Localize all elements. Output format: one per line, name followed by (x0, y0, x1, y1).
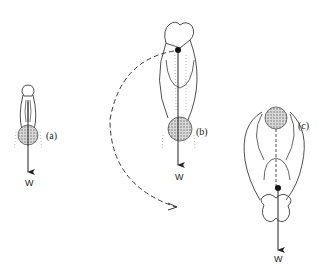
bulb-b (168, 117, 192, 141)
force-label-c: W (274, 254, 283, 264)
rotation-arrowhead-icon (168, 203, 177, 210)
root-arch-c (264, 158, 290, 180)
panel-label-b: (b) (196, 126, 208, 138)
force-label-b: W (175, 172, 184, 182)
panel-label-c: (c) (298, 120, 309, 132)
force-label-a: W (25, 178, 34, 188)
rotation-arrow (110, 51, 176, 207)
panel-label-a: (a) (46, 130, 57, 142)
tooth-crown-b (165, 22, 194, 48)
dotted-roots-b (175, 55, 186, 110)
panel-b: W (b) (159, 22, 207, 182)
panel-a: W (a) (14, 85, 57, 188)
tooth-crown-c (261, 194, 291, 221)
tooth-crown-a (22, 85, 34, 96)
panel-c: W (c) (244, 107, 309, 264)
diagram-canvas: W (a) W (b) W (c) (0, 0, 324, 273)
root-lines-b (166, 60, 194, 88)
bulb-c (265, 107, 287, 129)
